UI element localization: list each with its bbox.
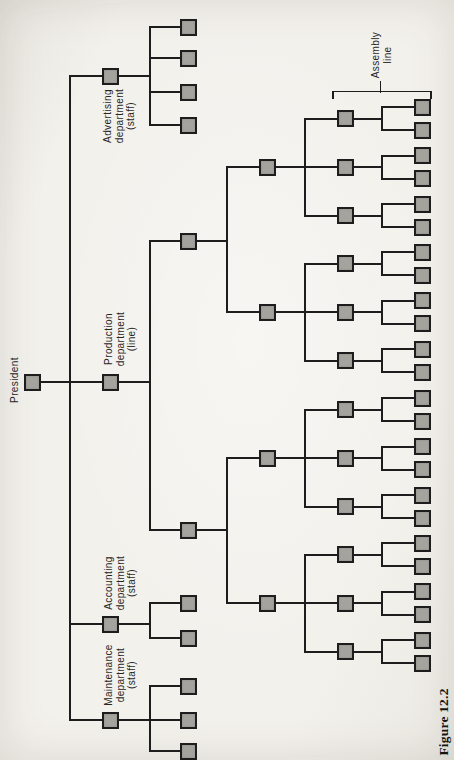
assembly-worker-box: [414, 583, 431, 600]
connector-line: [381, 591, 383, 616]
connector-line: [149, 602, 151, 639]
connector-line: [226, 602, 260, 604]
maintenance-label-line2: department: [114, 644, 126, 706]
assembly-worker-box: [414, 292, 431, 309]
connector-line: [149, 240, 151, 531]
maintenance-staff-box: [180, 743, 197, 760]
connector-line: [226, 166, 260, 168]
scanned-textbook-page: President Advertising department (staff)…: [0, 0, 454, 760]
president-label: President: [9, 357, 21, 403]
connector-line: [304, 409, 338, 411]
assembly-worker-box: [414, 655, 431, 672]
production-label-line3: (line): [126, 312, 138, 367]
connector-line: [381, 348, 383, 373]
connector-line: [353, 311, 384, 313]
connector-line: [118, 719, 152, 721]
production-unit-box: [180, 233, 197, 250]
maintenance-label-line3: (staff): [126, 644, 138, 706]
assembly-bracket-end-tick: [430, 91, 432, 99]
connector-line: [226, 457, 260, 459]
foreman-box: [337, 304, 354, 321]
connector-line: [381, 251, 415, 253]
accounting-staff-box: [180, 595, 197, 612]
assembly-worker-box: [414, 535, 431, 552]
connector-line: [69, 719, 103, 721]
connector-line: [353, 118, 384, 120]
connector-line: [381, 469, 415, 471]
connector-line: [69, 381, 103, 383]
production-department-box: [102, 374, 119, 391]
accounting-label-line1: Accounting: [103, 556, 115, 611]
connector-line: [149, 685, 181, 687]
connector-line: [381, 446, 383, 471]
connector-line: [353, 263, 384, 265]
connector-line: [381, 494, 415, 496]
assembly-worker-box: [414, 244, 431, 261]
accounting-label-line2: department: [114, 556, 126, 611]
connector-line: [353, 651, 384, 653]
advertising-staff-box: [180, 19, 197, 36]
connector-line: [196, 240, 229, 242]
assembly-worker-box: [414, 413, 431, 430]
connector-line: [381, 494, 383, 519]
figure-caption-text: Figure 12.2: [437, 688, 451, 755]
advertising-staff-box: [180, 117, 197, 134]
foreman-box: [337, 546, 354, 563]
connector-line: [149, 750, 181, 752]
advertising-staff-box: [180, 84, 197, 101]
foreman-box: [337, 498, 354, 515]
maintenance-department-label: Maintenance department (staff): [103, 644, 138, 706]
connector-line: [381, 542, 383, 567]
president-box: [24, 374, 41, 391]
connector-line: [118, 381, 152, 383]
production-unit-box: [180, 522, 197, 539]
connector-line: [353, 166, 384, 168]
connector-line: [304, 166, 338, 168]
assembly-worker-box: [414, 341, 431, 358]
connector-line: [353, 215, 384, 217]
connector-line: [381, 420, 415, 422]
connector-line: [381, 155, 415, 157]
connector-line: [353, 360, 384, 362]
connector-line: [381, 397, 415, 399]
assembly-bracket-end-tick: [332, 91, 334, 99]
connector-line: [149, 602, 181, 604]
connector-line: [304, 506, 338, 508]
connector-line: [275, 602, 307, 604]
foreman-box: [337, 450, 354, 467]
connector-line: [226, 166, 228, 313]
foreman-box: [337, 110, 354, 127]
assembly-worker-box: [414, 315, 431, 332]
connector-line: [304, 118, 338, 120]
connector-line: [381, 300, 383, 325]
connector-line: [381, 614, 415, 616]
advertising-label-line3: (staff): [124, 89, 136, 144]
president-label-text: President: [9, 357, 21, 403]
connector-line: [353, 506, 384, 508]
production-label-line1: Production: [103, 312, 115, 367]
connector-line: [381, 155, 383, 180]
connector-line: [304, 215, 338, 217]
assembly-bracket-label-tick: [380, 81, 382, 93]
connector-line: [381, 226, 415, 228]
connector-line: [381, 251, 383, 276]
figure-caption: Figure 12.2: [437, 688, 451, 755]
assembly-label-line2: line: [381, 32, 393, 79]
connector-line: [304, 602, 338, 604]
assembly-worker-box: [414, 487, 431, 504]
connector-line: [381, 639, 415, 641]
foreman-box: [337, 352, 354, 369]
assembly-worker-box: [414, 510, 431, 527]
connector-line: [149, 240, 181, 242]
advertising-department-label: Advertising department (staff): [101, 89, 136, 144]
advertising-department-box: [102, 68, 119, 85]
connector-line: [381, 178, 415, 180]
accounting-staff-box: [180, 630, 197, 647]
assembly-worker-box: [414, 267, 431, 284]
accounting-department-label: Accounting department (staff): [103, 556, 138, 611]
connector-line: [381, 397, 383, 422]
connector-line: [353, 554, 384, 556]
connector-line: [381, 203, 383, 228]
connector-line: [381, 371, 415, 373]
accounting-label-line3: (staff): [126, 556, 138, 611]
